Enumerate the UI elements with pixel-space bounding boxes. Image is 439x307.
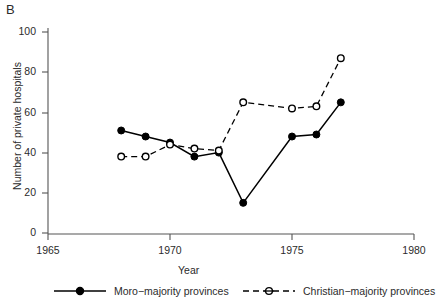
legend-label-moro: Moro−majority provinces — [114, 285, 229, 297]
x-tick-label-1965: 1965 — [23, 244, 73, 256]
data-point — [289, 133, 296, 140]
legend-swatch-dashed-open-circle — [241, 284, 297, 298]
data-point — [142, 153, 149, 160]
data-point — [313, 131, 320, 138]
data-point — [338, 55, 345, 62]
data-point — [142, 133, 149, 140]
data-series-layer — [118, 55, 345, 207]
data-point — [289, 105, 296, 112]
data-point — [313, 103, 320, 110]
y-tick-label-20: 20 — [2, 186, 36, 198]
panel-label: B — [6, 2, 15, 17]
series-christian — [118, 55, 344, 160]
x-axis-ticks — [48, 234, 414, 240]
axis-lines — [48, 28, 414, 234]
data-point — [240, 99, 247, 106]
x-axis-title: Year — [178, 264, 199, 276]
legend-item-moro[interactable]: Moro−majority provinces — [52, 282, 229, 300]
data-point — [240, 199, 247, 206]
legend-swatch-solid-filled-circle — [52, 284, 108, 298]
data-point — [118, 153, 125, 160]
y-tick-label-40: 40 — [2, 146, 36, 158]
y-axis-ticks — [42, 32, 48, 233]
chart-legend: Moro−majority provinces Christian−majori… — [0, 282, 428, 304]
data-point — [118, 127, 125, 134]
y-tick-label-100: 100 — [2, 25, 36, 37]
data-point — [167, 141, 174, 148]
legend-label-christian: Christian−majority provinces — [303, 285, 435, 297]
y-tick-label-60: 60 — [2, 106, 36, 118]
x-tick-label-1975: 1975 — [267, 244, 317, 256]
data-point — [191, 153, 198, 160]
data-point — [337, 99, 344, 106]
series-moro — [118, 99, 345, 207]
series-line — [121, 58, 341, 156]
legend-item-christian[interactable]: Christian−majority provinces — [241, 282, 435, 300]
y-tick-label-0: 0 — [2, 226, 36, 238]
x-tick-label-1980: 1980 — [389, 244, 439, 256]
data-point — [191, 145, 198, 152]
data-point — [216, 147, 223, 154]
x-tick-label-1970: 1970 — [145, 244, 195, 256]
y-tick-label-80: 80 — [2, 65, 36, 77]
